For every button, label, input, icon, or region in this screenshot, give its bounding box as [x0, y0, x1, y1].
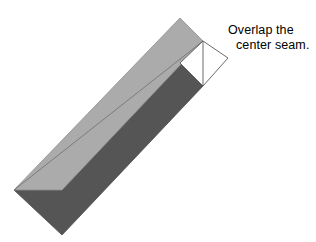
annotation-line-1: Overlap the	[228, 23, 294, 38]
figure-canvas: Overlap the center seam.	[0, 0, 316, 242]
annotation-line-2: center seam.	[236, 38, 309, 53]
